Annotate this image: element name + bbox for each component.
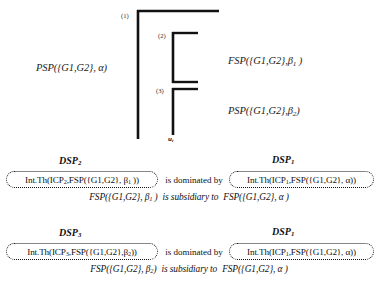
relation-1-left-title-subscript: 2 [78,159,81,166]
relation-1-left-formula-pre: Int.Th(ICP [25,175,64,185]
relation-1-left-formula-mid: ,FSP({G1,G2}, β [67,175,128,185]
relation-2-subsidiary-mid: is subsidiary to [161,264,217,274]
relation-2-left-formula-pre: Int.Th(ICP [27,247,66,257]
relation-1-left-node[interactable]: Int.Th(ICP2,FSP({G1,G2}, β1 )) [6,171,158,188]
relation-1-subsidiary-right: FSP({G1,G2}, α ) [223,192,289,202]
diagram-label-fsp-beta1-text: FSP({G1,G2},β [228,55,293,66]
diagram-marker-3: (3) [156,87,164,94]
relation-2-left-formula-post: )) [131,247,137,257]
relation-1-right-node[interactable]: Int.Th(ICP1,FSP({G1,G2}, α)) [229,171,374,188]
relation-2-right-title: DSP1 [272,226,294,237]
relation-1-subsidiary-mid: is subsidiary to [163,192,219,202]
relation-2-right-node[interactable]: Int.Th(ICP1,FSP({G1,G2}, α)) [229,243,374,260]
diagram-label-fsp-beta1: FSP({G1,G2},β1 ) [228,55,302,66]
relation-1-right-title: DSP1 [272,154,294,165]
relation-2-right-title-subscript: 1 [291,230,294,237]
diagram-marker-1: (1) [121,12,129,19]
relation-block-2: DSP3 DSP1 Int.Th(ICP3,FSP({G1,G2},β2)) i… [0,224,378,297]
diagram-axis-label-u: ut [168,135,173,143]
relation-2-right-title-text: DSP [272,226,291,237]
diagram-label-psp-beta2-text: PSP({G1,G2},β [228,105,293,116]
relation-2-subsidiary-left: FSP({G1,G2}, β [90,264,150,274]
relation-1-subsidiary-left: FSP({G1,G2}, β [89,192,149,202]
relation-1-subsidiary-left-tail: ) [152,192,157,202]
relation-2-right-formula-pre: Int.Th(ICP [247,247,286,257]
relation-1-right-title-subscript: 1 [291,158,294,165]
process-structure-diagram: (1) (2) (3) PSP({G1,G2}, α) FSP({G1,G2},… [0,0,378,152]
diagram-axis-label-u-subscript: t [172,138,173,143]
relation-1-right-title-text: DSP [272,154,291,165]
relation-1-left-formula: Int.Th(ICP2,FSP({G1,G2}, β1 )) [25,175,139,185]
diagram-label-psp-beta2: PSP({G1,G2},β2) [228,105,300,116]
relation-2-left-title: DSP3 [59,227,81,238]
diagram-lines [0,0,378,152]
diagram-label-fsp-beta1-tail: ) [296,55,302,66]
relation-1-left-title-text: DSP [59,155,78,166]
relation-2-left-node[interactable]: Int.Th(ICP3,FSP({G1,G2},β2)) [6,243,158,260]
relation-1-right-formula-mid: ,FSP({G1,G2}, α)) [289,175,356,185]
diagram-label-psp-alpha: PSP({G1,G2}, α) [36,62,107,73]
relation-2-right-formula-mid: ,FSP({G1,G2}, α)) [289,247,356,257]
relation-1-right-formula-pre: Int.Th(ICP [247,175,286,185]
relation-2-left-formula-mid: ,FSP({G1,G2},β [69,247,128,257]
relation-2-subsidiary-line: FSP({G1,G2}, β2)is subsidiary toFSP({G1,… [0,264,378,274]
relation-2-subsidiary-right: FSP({G1,G2}, α ) [222,264,288,274]
relation-2-right-formula: Int.Th(ICP1,FSP({G1,G2}, α)) [247,247,356,257]
relation-2-left-title-subscript: 3 [78,231,81,238]
relation-1-left-formula-post: )) [131,175,139,185]
relation-2-left-formula: Int.Th(ICP3,FSP({G1,G2},β2)) [27,247,137,257]
relation-block-1: DSP2 DSP1 Int.Th(ICP2,FSP({G1,G2}, β1 ))… [0,152,378,224]
diagram-marker-2: (2) [158,32,166,39]
relation-2-left-title-text: DSP [59,227,78,238]
relation-1-right-formula: Int.Th(ICP1,FSP({G1,G2}, α)) [247,175,356,185]
relation-2-subsidiary-left-tail: ) [153,264,156,274]
relation-2-connector-text: is dominated by [160,247,228,257]
relation-1-left-title: DSP2 [59,155,81,166]
relation-1-subsidiary-line: FSP({G1,G2}, β1 )is subsidiary toFSP({G1… [0,192,378,202]
relation-1-connector-text: is dominated by [160,175,228,185]
diagram-label-psp-beta2-tail: ) [296,105,299,116]
